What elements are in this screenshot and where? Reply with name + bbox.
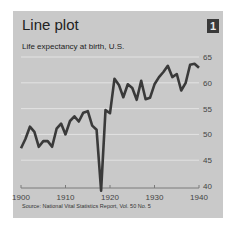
y-tick-label: 65: [203, 53, 212, 62]
x-tick-label: 1910: [57, 193, 75, 202]
line-plot: 19001910192019301940 404550556065: [0, 0, 232, 230]
x-tick-label: 1940: [190, 193, 208, 202]
y-tick-label: 55: [203, 105, 212, 114]
y-tick-label: 60: [203, 79, 212, 88]
x-tick-label: 1930: [146, 193, 164, 202]
y-tick-label: 45: [203, 156, 212, 165]
x-tick-label: 1920: [101, 193, 119, 202]
y-axis: 404550556065: [203, 53, 212, 191]
x-axis: 19001910192019301940: [12, 185, 208, 202]
x-tick-label: 1900: [12, 193, 30, 202]
y-tick-label: 50: [203, 130, 212, 139]
y-tick-label: 40: [203, 182, 212, 191]
